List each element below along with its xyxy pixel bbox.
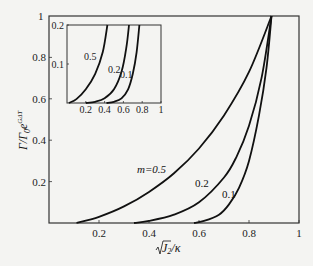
inset-label-m01: 0.1: [120, 69, 133, 80]
y-tick-label: 0.6: [32, 93, 46, 105]
chart-svg: 0.20.40.60.81 0.20.40.60.8 m=0.5 0.2 0.1…: [0, 0, 313, 266]
x-tick-label: 0.8: [136, 104, 149, 115]
x-tick-label: 0.6: [192, 227, 206, 239]
y-tick-label: 0.8: [32, 51, 46, 63]
inset-y-ticks: 0.10.2: [52, 20, 70, 70]
x-axis-label-text: J2/κ: [162, 241, 181, 256]
inset-label-m05: 0.5: [84, 51, 97, 62]
x-tick-label: 0.4: [98, 104, 111, 115]
x-tick-label: 0.8: [242, 227, 256, 239]
inset-plot: 0.20.40.60.81 0.10.2 0.5 0.2 0.1: [52, 20, 164, 115]
y-tick-label: 0.1: [52, 59, 65, 70]
y-axis-label: Γ/Γ0eGΔT: [16, 110, 32, 151]
x-axis-label: J2/κ: [156, 241, 181, 256]
label-m01: 0.1: [222, 188, 236, 200]
y-tick-label: 0.2: [32, 176, 46, 188]
x-tick-label: 0.4: [142, 227, 156, 239]
x-tick-label: 0.2: [80, 104, 93, 115]
y-tick-label: 0.2: [52, 20, 65, 31]
x-tick-label: 1: [296, 227, 302, 239]
x-tick-label: 0.2: [92, 227, 106, 239]
label-m05: m=0.5: [137, 163, 167, 175]
chart-root: 0.20.40.60.81 0.20.40.60.8 m=0.5 0.2 0.1…: [0, 0, 313, 266]
label-m02: 0.2: [195, 177, 209, 189]
y-top-tick: 1: [38, 10, 44, 22]
y-axis-label-text: Γ/Γ0eGΔT: [16, 110, 32, 151]
x-tick-label: 0.6: [117, 104, 130, 115]
inset-label-m02: 0.2: [108, 64, 121, 75]
y-tick-label: 0.4: [32, 134, 46, 146]
x-tick-label: 1: [159, 104, 164, 115]
